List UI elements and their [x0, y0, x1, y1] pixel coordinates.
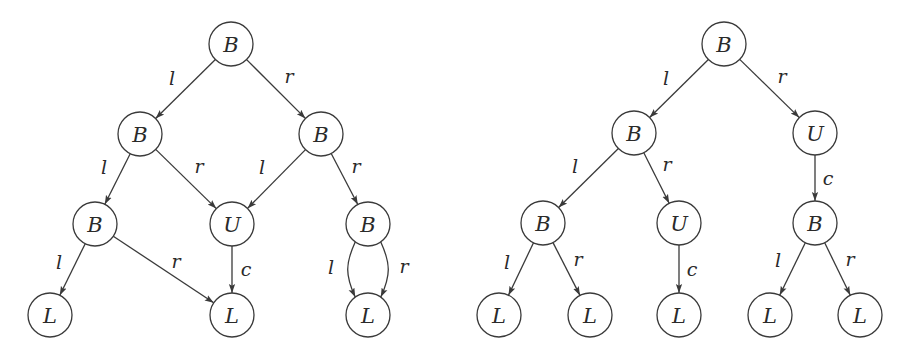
node-U: U — [657, 201, 701, 245]
nodes: BBBBUBLLL — [28, 22, 390, 337]
node-B: B — [346, 202, 390, 246]
node-L: L — [28, 293, 72, 337]
edge-n3-n6-l-arrow — [60, 244, 85, 296]
diagram-canvas: BBBBUBLLLlrlrlrlrclr BBUBUBLLLLLlrlrclrc… — [0, 0, 907, 359]
node-L: L — [748, 293, 792, 337]
edge-label: r — [399, 255, 410, 277]
edge-n5-n8-r-arrow — [381, 242, 389, 297]
edge-label: r — [194, 155, 205, 177]
edge-m5-m9-l-arrow — [780, 243, 806, 295]
node-label: L — [224, 304, 239, 328]
edge-label: l — [775, 249, 781, 271]
node-label: U — [670, 212, 689, 236]
node-U: U — [793, 111, 837, 155]
node-L: L — [346, 293, 390, 337]
node-U: U — [210, 202, 254, 246]
node-B: B — [299, 112, 343, 156]
node-label: B — [359, 213, 375, 237]
node-label: L — [360, 304, 375, 328]
node-label: L — [491, 304, 506, 328]
edge-label: l — [56, 251, 62, 273]
edge-label: l — [259, 156, 265, 178]
edge-n0-n2-r-arrow — [247, 60, 306, 119]
edge-label: l — [328, 256, 334, 278]
edge-label: l — [101, 156, 107, 178]
node-label: U — [223, 213, 242, 237]
node-label: B — [131, 123, 147, 147]
edge-n0-n1-l-arrow — [156, 60, 216, 119]
node-L: L — [838, 293, 882, 337]
edge-label: l — [663, 67, 669, 89]
node-label: L — [762, 304, 777, 328]
node-B: B — [118, 112, 162, 156]
left-dag-diagram: BBBBUBLLLlrlrlrlrclr — [28, 22, 410, 337]
edge-label: l — [504, 251, 510, 273]
node-label: U — [806, 122, 825, 146]
edge-label: r — [573, 248, 584, 270]
node-label: B — [806, 212, 822, 236]
edge-label: r — [351, 155, 362, 177]
edge-labels: lrlrlrlrclr — [56, 65, 410, 280]
node-B: B — [702, 22, 746, 66]
edge-label: c — [687, 258, 698, 280]
node-B: B — [612, 111, 656, 155]
edge-n1-n4-r-arrow — [156, 149, 217, 208]
edge-label: r — [777, 65, 788, 87]
edge-m0-m1-l-arrow — [650, 60, 709, 118]
edge-label: r — [845, 248, 856, 270]
node-B: B — [209, 22, 253, 66]
edge-label: c — [241, 258, 252, 280]
node-L: L — [210, 293, 254, 337]
edge-label: c — [823, 167, 834, 189]
edge-n2-n4-l-arrow — [248, 150, 306, 209]
edge-n3-n7-r-arrow — [113, 236, 213, 303]
edge-n1-n3-l-arrow — [105, 154, 130, 205]
node-label: L — [852, 304, 867, 328]
node-B: B — [793, 201, 837, 245]
node-label: B — [86, 213, 102, 237]
edge-label: r — [284, 65, 295, 87]
node-label: B — [625, 122, 641, 146]
node-label: L — [42, 304, 57, 328]
node-B: B — [521, 201, 565, 245]
edge-m1-m3-l-arrow — [559, 149, 619, 208]
edge-m3-m6-l-arrow — [509, 243, 534, 295]
edge-label: r — [171, 250, 182, 272]
edges — [60, 60, 389, 303]
node-label: L — [582, 304, 597, 328]
edge-m0-m2-r-arrow — [740, 59, 800, 117]
node-L: L — [477, 293, 521, 337]
node-L: L — [657, 293, 701, 337]
node-label: B — [222, 33, 238, 57]
node-B: B — [73, 202, 117, 246]
edges — [509, 59, 851, 295]
edge-label: l — [572, 155, 578, 177]
node-label: B — [715, 33, 731, 57]
node-label: L — [671, 304, 686, 328]
edge-label: l — [169, 67, 175, 89]
node-L: L — [568, 293, 612, 337]
node-label: B — [312, 123, 328, 147]
edge-label: r — [662, 153, 673, 175]
right-tree-diagram: BBUBUBLLLLLlrlrclrclr — [477, 22, 882, 337]
node-label: B — [534, 212, 550, 236]
edge-n5-n8-l-arrow — [348, 242, 356, 297]
